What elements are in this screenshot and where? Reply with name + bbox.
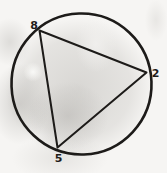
vertex-label-bottom: 5	[55, 152, 63, 165]
vertex-label-top-left: 8	[30, 19, 38, 32]
geometry-canvas: 8 2 5	[0, 0, 167, 173]
inscribed-triangle	[40, 31, 147, 148]
figure-circle-with-inscribed-triangle: 8 2 5	[0, 0, 167, 173]
vertex-label-right: 2	[152, 67, 160, 80]
